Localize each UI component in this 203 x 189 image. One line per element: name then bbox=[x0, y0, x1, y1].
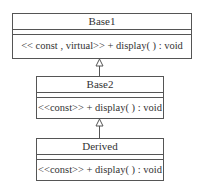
class-name-derived: Derived bbox=[37, 139, 163, 154]
operation-display: <<const>> + display( ) : void bbox=[37, 161, 163, 179]
class-box-derived: Derived <<const>> + display( ) : void bbox=[36, 138, 164, 181]
operation-display: << const , virtual>> + display( ) : void bbox=[13, 38, 191, 54]
class-box-base1: Base1 << const , virtual>> + display( ) … bbox=[12, 13, 192, 59]
class-name-base2: Base2 bbox=[37, 77, 163, 92]
class-box-base2: Base2 <<const>> + display( ) : void bbox=[36, 76, 164, 119]
operation-display: <<const>> + display( ) : void bbox=[37, 99, 163, 117]
class-name-base1: Base1 bbox=[13, 14, 191, 29]
operations-divider bbox=[37, 159, 163, 160]
attributes-divider bbox=[37, 92, 163, 93]
attributes-divider bbox=[13, 29, 191, 30]
operations-divider bbox=[37, 97, 163, 98]
generalization-arrow-derived-base2 bbox=[94, 118, 106, 139]
attributes-divider bbox=[37, 154, 163, 155]
generalization-arrow-base2-base1 bbox=[94, 58, 106, 77]
operations-divider bbox=[13, 34, 191, 35]
